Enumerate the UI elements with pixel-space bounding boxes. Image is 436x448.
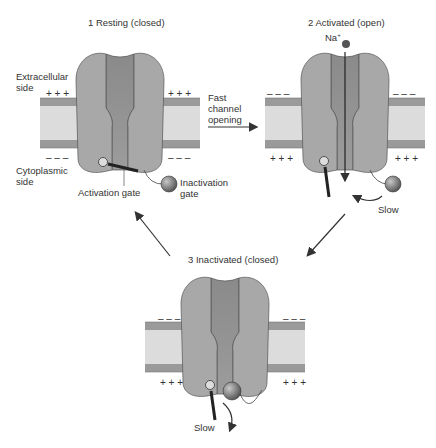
minus-charges: – – –: [393, 88, 416, 99]
inactivation-ball-icon: [161, 176, 177, 192]
minus-charges: – – –: [267, 88, 290, 99]
gate-hinge-icon: [320, 157, 329, 166]
arrow-down-left-icon: [308, 214, 345, 255]
state-resting-title: 1 Resting (closed): [88, 17, 165, 28]
activation-gate-label: Activation gate: [78, 187, 140, 198]
cytoplasmic-label-2: side: [16, 176, 33, 187]
curved-arrow-icon: [223, 403, 232, 430]
plus-charges: + + +: [46, 88, 69, 99]
fast-transition: Fast channel opening: [208, 92, 256, 127]
minus-charges: – – –: [46, 152, 69, 163]
slow-label: Slow: [378, 204, 399, 215]
minus-charges: – – –: [283, 313, 306, 324]
extracellular-label-2: side: [16, 82, 33, 93]
inactivation-ball-icon: [223, 382, 241, 400]
state-inactivated-title: 3 Inactivated (closed): [188, 254, 278, 265]
cytoplasmic-label: Cytoplasmic: [16, 165, 68, 176]
plus-charges: + + +: [160, 377, 183, 388]
gate-hinge-icon: [99, 158, 108, 167]
minus-charges: – – –: [158, 313, 181, 324]
sodium-channel-diagram: 1 Resting (closed) Extracellular side Cy…: [0, 0, 436, 448]
extracellular-label: Extracellular: [16, 71, 68, 82]
gate-hinge-icon: [206, 381, 215, 390]
sodium-ion-icon: [342, 40, 350, 48]
sodium-ion-label: Na+: [325, 32, 341, 43]
fast-label-2: channel: [208, 103, 241, 114]
state-resting: 1 Resting (closed) Extracellular side Cy…: [16, 17, 228, 199]
plus-charges: + + +: [270, 153, 293, 164]
plus-charges: + + +: [168, 88, 191, 99]
fast-label: Fast: [208, 92, 227, 103]
plus-charges: + + +: [283, 377, 306, 388]
plus-charges: + + +: [395, 153, 418, 164]
fast-label-3: opening: [208, 114, 242, 125]
state-activated-title: 2 Activated (open): [308, 17, 385, 28]
inactivation-gate-label: Inactivation: [180, 177, 228, 188]
inactivation-gate-label-2: gate: [180, 188, 199, 199]
minus-charges: – – –: [168, 152, 191, 163]
state-inactivated: 3 Inactivated (closed) – – – – – – + + +…: [145, 254, 306, 433]
state-activated: 2 Activated (open) Na+ – – – – – – + + +…: [265, 17, 425, 215]
slow-label: Slow: [194, 422, 215, 433]
activation-gate-icon: [211, 391, 215, 420]
arrow-up-left-icon: [136, 213, 170, 256]
inactivation-ball-icon: [385, 176, 401, 192]
curved-arrow-icon: [354, 196, 382, 201]
